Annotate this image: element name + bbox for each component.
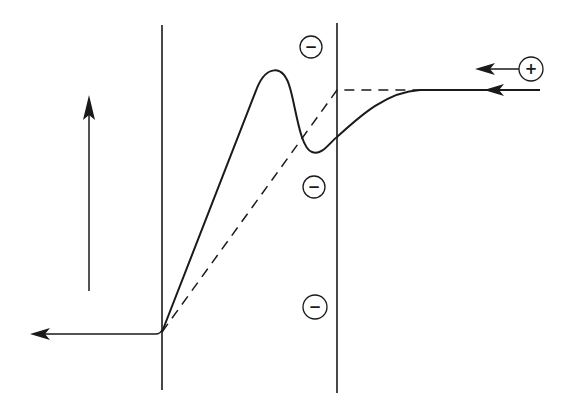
positive-charge-symbol: + xyxy=(525,60,538,78)
negative-charge-marker-bottom: − xyxy=(303,295,327,319)
negative-charge-marker-middle: − xyxy=(303,176,325,198)
negative-charge-symbol: − xyxy=(308,178,321,196)
positive-charge-marker: + xyxy=(519,57,543,81)
outflow-arrow-shaft xyxy=(40,330,162,334)
outflow-arrow xyxy=(30,328,162,340)
solid-profile-curve xyxy=(162,70,540,332)
negative-charge-symbol: − xyxy=(309,298,322,316)
negative-charge-symbol: − xyxy=(305,38,318,56)
dashed-profile-curve xyxy=(162,90,420,332)
diagram-canvas: + − − − xyxy=(0,0,568,410)
negative-charge-marker-top: − xyxy=(300,36,322,58)
vertical-arrow xyxy=(83,95,95,291)
positive-ion-arrow xyxy=(475,63,519,75)
